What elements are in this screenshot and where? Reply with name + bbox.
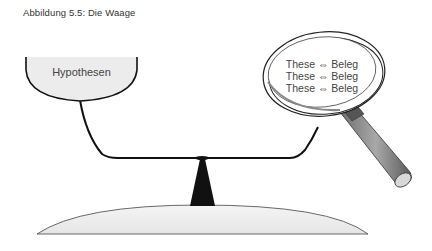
- balance-scale-diagram: [0, 0, 432, 251]
- these-beleg-line-2: These ⇔ Beleg: [277, 70, 367, 82]
- these-beleg-line-1: These ⇔ Beleg: [277, 58, 367, 70]
- fulcrum: [190, 159, 215, 206]
- magnifier-handle: [340, 103, 414, 190]
- magnifier-text: These ⇔ Beleg These ⇔ Beleg These ⇔ Bele…: [277, 58, 367, 94]
- hypothesen-label: Hypothesen: [26, 66, 137, 78]
- these-beleg-line-3: These ⇔ Beleg: [277, 82, 367, 94]
- scale-beam: [80, 100, 318, 158]
- scale-base: [37, 205, 368, 234]
- left-pan-bowl: [26, 57, 137, 101]
